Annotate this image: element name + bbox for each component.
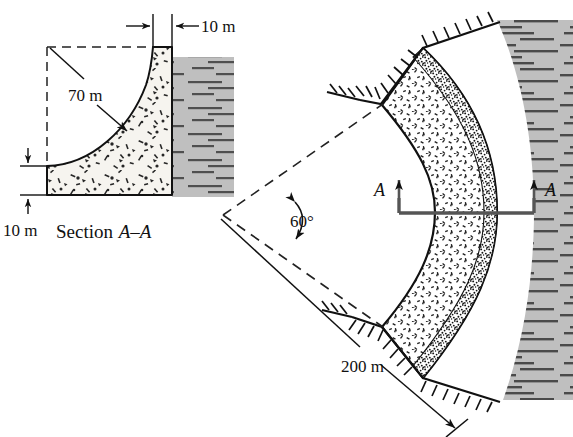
- section-water-region: [172, 57, 234, 197]
- section-mark-label-right: A: [544, 180, 557, 200]
- radius-70m-label: 70 m: [68, 86, 102, 105]
- section-caption-prefix: Section: [56, 221, 118, 242]
- angle-60-label: 60°: [290, 212, 314, 231]
- engineering-figure: 70 m 10 m 10 m Section A–A: [0, 0, 573, 437]
- radius-200m-label: 200 m: [341, 357, 384, 376]
- figure-svg: 70 m 10 m 10 m Section A–A: [0, 0, 573, 437]
- section-caption-label: A–A: [117, 221, 152, 242]
- section-mark-label-left: A: [373, 180, 386, 200]
- base-thickness-label: 10 m: [3, 221, 37, 240]
- crest-thickness-label: 10 m: [201, 17, 235, 36]
- section-caption: Section A–A: [56, 221, 152, 242]
